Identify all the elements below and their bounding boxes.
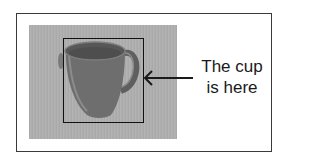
annotation-line-1: The cup — [196, 56, 268, 77]
annotation-label: The cup is here — [196, 56, 268, 98]
annotation-line-2: is here — [196, 77, 268, 98]
bounding-box — [63, 38, 144, 123]
arrow-left-icon — [143, 68, 195, 88]
